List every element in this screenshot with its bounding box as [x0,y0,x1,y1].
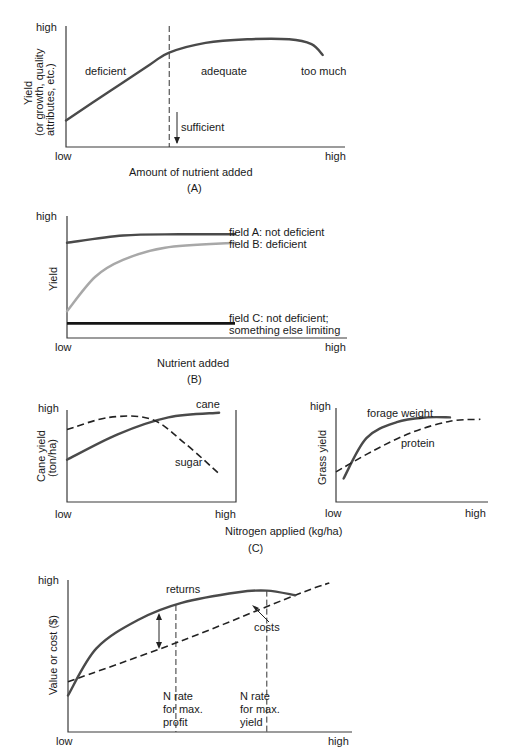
panel-c-left-label-sugar: sugar [175,456,203,468]
panel-d-label-returns: returns [166,583,201,595]
panel-a-ylabel-3: attributes, etc.) [44,63,56,136]
figure: high Yield (or growth, quality attribute… [0,0,509,747]
panel-c-right-x-tick-high: high [465,507,486,519]
panel-b-title: (B) [187,373,202,385]
panel-d-yield-label-3: yield [240,716,263,728]
panel-b-ylabel: Yield [47,267,59,291]
panel-b-xlabel: Nutrient added [157,357,229,369]
panel-c-right-ylabel: Grass yield [316,430,328,485]
panel-c-left-ylabel-2: (ton/ha) [46,439,58,477]
panel-c-left-label-cane: cane [196,398,220,410]
panel-d-profit-arrowhead-down [156,642,162,649]
panel-c-left-x-tick-high: high [215,508,236,520]
panel-b-x-tick-low: low [55,341,72,353]
panel-c-title: (C) [248,542,263,554]
panel-a-xlabel: Amount of nutrient added [129,166,253,178]
panel-c-right-label-protein: protein [401,437,435,449]
panel-c-left-axes [67,410,236,502]
panel-c-left-x-tick-low: low [55,508,72,520]
panel-a-label-too-much: too much [301,65,346,77]
panel-c-right-axes [336,408,488,502]
panel-d-x-tick-low: low [56,735,73,747]
panel-b-y-tick-high: high [36,210,57,222]
panel-b-field-a-curve [67,234,235,243]
panel-d-profit-label-2: for max. [163,703,203,715]
panel-d: high Value or cost ($) returns costs N r… [38,574,352,747]
panel-d-profit-arrowhead-up [156,613,162,620]
panel-d-returns-curve [68,590,295,695]
panel-b-legend-field-a: field A: not deficient [229,226,324,238]
panel-c-left-cane-curve [67,413,219,460]
panel-d-y-tick-high: high [38,574,59,586]
panel-a: high Yield (or growth, quality attribute… [22,21,346,194]
panel-c-right-y-tick-high: high [310,400,331,412]
panel-a-sufficient-arrowhead [174,137,180,144]
panel-b-x-tick-high: high [325,341,346,353]
panel-c-left: high Cane yield (ton/ha) cane sugar low … [35,398,236,520]
panel-b-legend-field-c-2: something else limiting [229,324,340,336]
panel-d-axes [68,580,352,732]
panel-c-right: high Grass yield forage weight protein l… [310,400,488,519]
panel-c-right-x-tick-low: low [325,507,342,519]
panel-c-right-label-forage: forage weight [367,407,433,419]
panel-b: high Yield field A: not deficient field … [36,210,347,385]
panel-b-legend-field-c-1: field C: not deficient; [229,312,329,324]
panel-d-ylabel: Value or cost ($) [47,615,59,695]
panel-a-title: (A) [187,182,202,194]
panel-d-yield-label-1: N rate [240,690,270,702]
panel-a-label-sufficient: sufficient [181,121,224,133]
panel-c-left-y-tick-high: high [38,402,59,414]
panel-a-x-tick-high: high [325,150,346,162]
panel-a-label-adequate: adequate [201,65,247,77]
panel-d-profit-label-1: N rate [163,690,193,702]
panel-b-legend-field-b: field B: deficient [229,238,307,250]
panel-a-x-tick-low: low [55,150,72,162]
panel-b-field-b-curve [67,243,235,311]
panel-d-label-costs: costs [254,621,280,633]
panel-d-profit-label-3: profit [163,716,187,728]
panel-a-y-tick-high: high [36,21,57,33]
panel-d-yield-label-2: for max. [240,703,280,715]
panel-d-x-tick-high: high [328,735,349,747]
panel-c-xlabel: Nitrogen applied (kg/ha) [225,525,342,537]
panel-a-label-deficient: deficient [85,65,126,77]
panel-a-yield-curve [66,39,323,121]
